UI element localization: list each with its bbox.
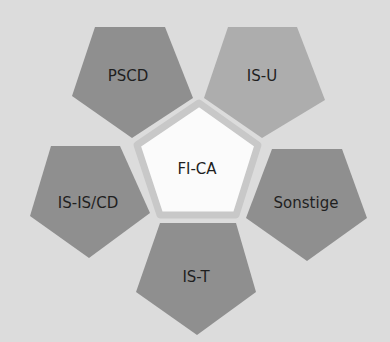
center-label: FI-CA — [177, 160, 217, 178]
node-label: Sonstige — [274, 194, 339, 212]
node-label: PSCD — [108, 67, 149, 85]
fi-ca-pentagon-diagram: PSCD IS-U IS-IS/CD Sonstige IS-T FI-CA — [0, 0, 390, 342]
node-label: IS-U — [247, 67, 277, 85]
node-label: IS-IS/CD — [58, 194, 118, 212]
node-label: IS-T — [182, 268, 210, 286]
